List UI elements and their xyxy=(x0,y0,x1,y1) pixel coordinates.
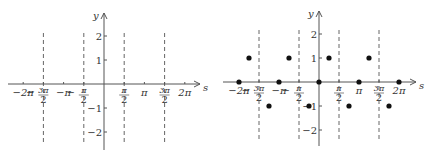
svg-text:2: 2 xyxy=(376,92,382,103)
y-axis-label: y xyxy=(307,8,314,19)
svg-text:2: 2 xyxy=(81,94,87,105)
svg-text:2: 2 xyxy=(161,94,167,105)
right-plot-with-points: sy−2π−3π2−π−π2π2π3π22π21−1−2 xyxy=(223,8,424,146)
data-point xyxy=(286,55,291,60)
left-plot-no-points: sy−2π−3π2−π−π2π2π3π22π21−1−2 xyxy=(8,10,208,150)
svg-text:−: − xyxy=(66,87,74,98)
x-tick-label: π xyxy=(355,85,363,96)
data-point xyxy=(346,103,351,108)
data-point xyxy=(316,79,321,84)
x-axis-label: s xyxy=(203,82,208,93)
svg-text:2: 2 xyxy=(336,92,342,103)
data-point xyxy=(246,55,251,60)
svg-text:−: − xyxy=(282,85,290,96)
data-point xyxy=(306,103,311,108)
y-tick-label: 2 xyxy=(311,29,317,40)
diagram-canvas: sy−2π−3π2−π−π2π2π3π22π21−1−2 sy−2π−3π2−π… xyxy=(0,0,428,154)
y-tick-label: −1 xyxy=(87,103,102,114)
y-tick-label: −2 xyxy=(302,125,317,136)
x-tick-fraction-label: π2 xyxy=(119,86,129,105)
data-point xyxy=(396,79,401,84)
svg-text:2: 2 xyxy=(256,92,262,103)
x-tick-label: π xyxy=(140,87,148,98)
x-tick-label: 2π xyxy=(392,85,406,96)
y-tick-label: 1 xyxy=(96,55,102,66)
data-point xyxy=(356,79,361,84)
x-axis-label: s xyxy=(419,80,424,91)
svg-text:2: 2 xyxy=(296,92,302,103)
y-tick-label: 2 xyxy=(96,31,102,42)
data-point xyxy=(366,55,371,60)
x-tick-fraction-label: 3π2 xyxy=(159,86,170,105)
svg-text:−: − xyxy=(242,85,250,96)
svg-text:−: − xyxy=(26,87,34,98)
y-tick-label: 1 xyxy=(311,53,317,64)
y-tick-label: −2 xyxy=(87,127,102,138)
x-tick-fraction-label: −π2 xyxy=(66,86,88,105)
data-point xyxy=(236,79,241,84)
svg-text:2: 2 xyxy=(40,94,46,105)
x-tick-fraction-label: −3π2 xyxy=(26,86,49,105)
x-tick-fraction-label: −3π2 xyxy=(242,84,265,103)
x-tick-fraction-label: π2 xyxy=(334,84,344,103)
x-tick-label: 2π xyxy=(177,87,191,98)
x-tick-fraction-label: −π2 xyxy=(282,84,304,103)
svg-text:2: 2 xyxy=(121,94,127,105)
x-tick-fraction-label: 3π2 xyxy=(374,84,385,103)
data-point xyxy=(276,79,281,84)
data-point xyxy=(326,55,331,60)
data-point xyxy=(266,103,271,108)
y-axis-label: y xyxy=(92,10,99,21)
data-point xyxy=(386,103,391,108)
